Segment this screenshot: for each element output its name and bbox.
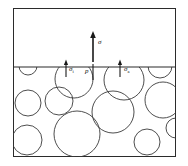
particle-circle bbox=[54, 111, 100, 157]
particle-circle bbox=[55, 60, 93, 98]
particle-circle bbox=[19, 57, 37, 75]
particle-field bbox=[12, 54, 186, 157]
particle-circle bbox=[148, 54, 172, 78]
arrow-internal-stress bbox=[64, 60, 68, 78]
arrow-surface-stress bbox=[118, 60, 122, 78]
label-surface-stress: σa bbox=[124, 65, 130, 74]
diagram-canvas: σ σi p σa bbox=[0, 0, 188, 166]
particle-circle bbox=[15, 90, 41, 116]
label-applied-stress: σ bbox=[98, 38, 102, 46]
particle-circle bbox=[92, 91, 134, 133]
frame-border bbox=[14, 9, 176, 157]
particle-circle bbox=[12, 125, 42, 155]
label-pressure: p bbox=[84, 67, 89, 75]
stress-diagram-figure: σ σi p σa bbox=[0, 0, 188, 166]
arrow-applied-stress bbox=[90, 31, 96, 62]
label-internal-stress: σi bbox=[69, 65, 74, 74]
particle-circle bbox=[134, 129, 160, 155]
